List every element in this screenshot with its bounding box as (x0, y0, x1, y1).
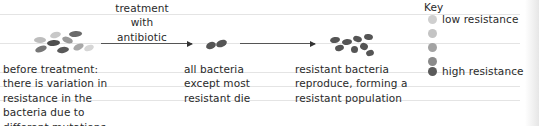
page-edge-shadow (525, 0, 539, 126)
caption-after-treatment: all bacteria except most resistant die (184, 62, 250, 105)
bacterium (365, 49, 375, 57)
key-dot-high (428, 67, 437, 76)
key-title: Key (424, 0, 443, 14)
bacterium (34, 44, 47, 54)
caption-before: before treatment: there is variation in … (3, 62, 107, 126)
key-dot-2 (428, 29, 437, 38)
key-dot-3 (428, 43, 437, 52)
key-label-low: low resistance (442, 12, 519, 26)
bacterium (215, 38, 228, 48)
bacterium (351, 46, 358, 53)
bacterium (342, 39, 352, 46)
bacterium (69, 30, 82, 37)
bacterium (205, 41, 217, 51)
key-label-high: high resistance (442, 64, 524, 78)
bacterium (83, 43, 94, 52)
key-dot-low (428, 15, 437, 24)
bacterium (34, 37, 46, 43)
bacterium (47, 39, 60, 46)
treatment-label: treatment with antibiotic (112, 1, 172, 44)
caption-reproduce: resistant bacteria reproduce, forming a … (295, 62, 407, 105)
bacterium (57, 46, 70, 54)
key-dot-4 (428, 57, 437, 66)
arrow-treatment (101, 43, 192, 44)
bacterium (49, 31, 61, 40)
arrow-reproduce (240, 43, 315, 44)
bacterium (364, 33, 374, 40)
bacterium (334, 44, 344, 52)
